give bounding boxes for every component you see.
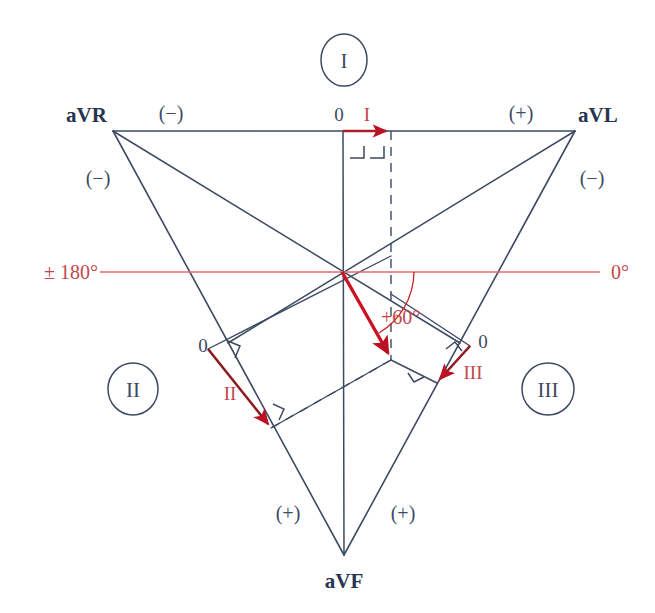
right-angle-mark-lead-i-left <box>350 146 364 158</box>
polarity-top-left-minus: (−) <box>159 102 184 125</box>
angle-label-180: ± 180° <box>44 261 98 283</box>
zero-mark-lead-i: 0 <box>334 104 344 125</box>
right-angle-mark-lead-iii-lower <box>408 373 424 382</box>
zero-mark-lead-iii: 0 <box>478 331 488 352</box>
lead-label-avf: aVF <box>325 569 364 593</box>
axis-avf <box>343 131 344 555</box>
polarity-bottom-right-plus: (+) <box>391 502 416 525</box>
hexaxial-reference-svg: I II III aVR aVL aVF (−) (+) (−) (−) (+)… <box>0 0 655 613</box>
polarity-bottom-left-plus: (+) <box>276 502 301 525</box>
projection-lead-ii-bottom <box>271 360 391 428</box>
right-angle-marks <box>228 146 462 420</box>
angle-label-0: 0° <box>611 261 629 283</box>
lead-label-avl: aVL <box>578 103 618 127</box>
polarity-right-minus: (−) <box>580 167 605 190</box>
projection-lead-ii-top <box>208 256 391 349</box>
circled-lead-iii-label: III <box>538 378 559 402</box>
polarity-top-right-plus: (+) <box>509 102 534 125</box>
right-angle-mark-lead-i-right <box>370 146 384 158</box>
vector-label-lead-ii: II <box>224 383 237 404</box>
polarity-left-minus: (−) <box>86 167 111 190</box>
circled-lead-ii-label: II <box>126 378 140 402</box>
vector-label-lead-i: I <box>364 104 370 125</box>
circled-lead-i-label: I <box>341 49 348 73</box>
projection-lead-iii-bottom <box>391 360 437 383</box>
augmented-lead-axes <box>113 131 575 555</box>
lead-label-avr: aVR <box>66 103 108 127</box>
vector-label-lead-iii: III <box>464 362 483 383</box>
right-angle-mark-lead-ii-lower <box>273 404 284 420</box>
zero-mark-lead-ii: 0 <box>198 335 208 356</box>
angle-label-axis: +60° <box>381 306 420 328</box>
right-angle-mark-lead-ii-upper <box>228 341 240 358</box>
projection-construction-lines <box>208 256 470 428</box>
hexaxial-diagram: I II III aVR aVL aVF (−) (+) (−) (−) (+)… <box>0 0 655 613</box>
circled-lead-badges <box>108 34 574 415</box>
